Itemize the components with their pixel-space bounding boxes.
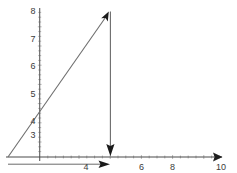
- y-tick-label: 6: [30, 61, 35, 71]
- ray-line: [8, 16, 107, 157]
- y-tick-label: 4: [30, 116, 35, 126]
- ray-arrowhead: [101, 12, 109, 22]
- x-tick-label: 8: [170, 162, 175, 172]
- x-tick-label: 6: [139, 162, 144, 172]
- y-tick-label: 5: [30, 89, 35, 99]
- y-tick-labels: 8 7 6 5 4 3: [30, 6, 35, 140]
- y-tick-label: 3: [30, 130, 35, 140]
- graph-figure: 8 7 6 5 4 3 4 6 8 10: [0, 0, 237, 173]
- x-tick-label: 4: [83, 162, 88, 172]
- x-tick-label: 10: [216, 162, 226, 172]
- y-tick-label: 7: [30, 34, 35, 44]
- coordinate-plot: 8 7 6 5 4 3 4 6 8 10: [0, 0, 237, 173]
- y-tick-label: 8: [30, 6, 35, 16]
